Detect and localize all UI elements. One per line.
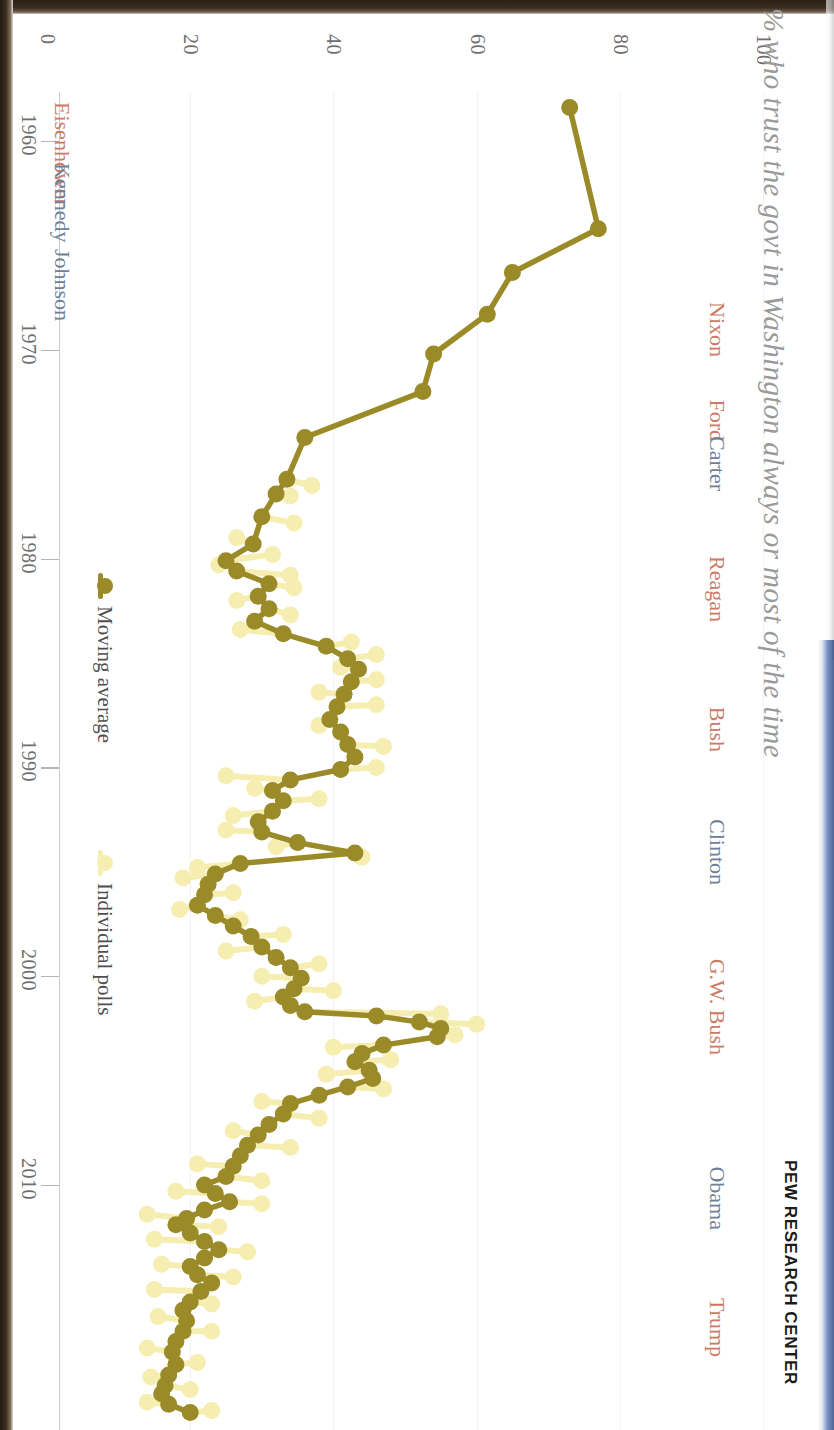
data-point bbox=[225, 1268, 242, 1285]
data-point bbox=[468, 1016, 485, 1033]
data-point bbox=[239, 1243, 256, 1260]
data-point bbox=[590, 220, 607, 237]
data-point bbox=[318, 1066, 335, 1083]
data-point bbox=[232, 621, 249, 638]
data-point bbox=[303, 477, 320, 494]
data-point bbox=[282, 607, 299, 624]
data-point bbox=[368, 759, 385, 776]
data-point bbox=[196, 1250, 213, 1267]
data-point bbox=[264, 546, 281, 563]
data-point bbox=[207, 907, 224, 924]
brand-label: PEW RESEARCH CENTER bbox=[780, 1160, 800, 1385]
data-point bbox=[225, 1122, 242, 1139]
data-point bbox=[504, 264, 521, 281]
data-point bbox=[268, 949, 285, 966]
data-point bbox=[346, 749, 363, 766]
data-point bbox=[196, 1233, 213, 1250]
data-point bbox=[289, 834, 306, 851]
data-point bbox=[210, 1218, 227, 1235]
data-point bbox=[167, 1183, 184, 1200]
data-point bbox=[414, 383, 431, 400]
data-point bbox=[429, 1028, 446, 1045]
data-point bbox=[268, 485, 285, 502]
data-point bbox=[278, 471, 295, 488]
data-point bbox=[146, 1281, 163, 1298]
data-point bbox=[253, 824, 270, 841]
data-point bbox=[203, 1323, 220, 1340]
data-point bbox=[150, 1308, 167, 1325]
data-point bbox=[167, 1216, 184, 1233]
data-point bbox=[311, 1087, 328, 1104]
data-point bbox=[225, 918, 242, 935]
data-point bbox=[253, 939, 270, 956]
data-point bbox=[253, 1172, 270, 1189]
chart-title: % who trust the govt in Washington alway… bbox=[757, 8, 790, 758]
data-point bbox=[210, 1241, 227, 1258]
data-point bbox=[189, 1266, 206, 1283]
data-point bbox=[196, 1202, 213, 1219]
data-point bbox=[139, 1394, 156, 1411]
data-point bbox=[182, 1381, 199, 1398]
legend-label-2: Individual polls bbox=[92, 883, 117, 1015]
data-point bbox=[182, 1225, 199, 1242]
data-point bbox=[296, 429, 313, 446]
data-point bbox=[203, 1402, 220, 1419]
data-point bbox=[425, 346, 442, 363]
data-point bbox=[311, 955, 328, 972]
data-point bbox=[218, 943, 235, 960]
data-point bbox=[275, 926, 292, 943]
data-point bbox=[364, 1070, 381, 1087]
data-point bbox=[218, 767, 235, 784]
data-point bbox=[343, 634, 360, 651]
data-point bbox=[253, 1195, 270, 1212]
data-point bbox=[232, 855, 249, 872]
data-point bbox=[479, 306, 496, 323]
data-point bbox=[282, 771, 299, 788]
data-point bbox=[346, 1053, 363, 1070]
data-point bbox=[286, 515, 303, 532]
poll-stem bbox=[226, 776, 290, 780]
data-point bbox=[282, 488, 299, 505]
data-point bbox=[368, 696, 385, 713]
data-point bbox=[375, 738, 392, 755]
data-point bbox=[296, 1003, 313, 1020]
data-point bbox=[225, 884, 242, 901]
data-point bbox=[139, 1339, 156, 1356]
data-point bbox=[275, 1106, 292, 1123]
data-point bbox=[375, 1037, 392, 1054]
data-point bbox=[339, 1078, 356, 1095]
data-point bbox=[318, 638, 335, 655]
data-point bbox=[253, 508, 270, 525]
data-point bbox=[246, 780, 263, 797]
data-point bbox=[346, 845, 363, 862]
data-point bbox=[275, 625, 292, 642]
data-point bbox=[218, 822, 235, 839]
data-point bbox=[311, 1110, 328, 1127]
data-point bbox=[311, 684, 328, 701]
data-point bbox=[189, 1354, 206, 1371]
data-point bbox=[182, 1404, 199, 1421]
data-point bbox=[253, 1093, 270, 1110]
data-point bbox=[282, 1139, 299, 1156]
data-point bbox=[139, 1206, 156, 1223]
data-point bbox=[228, 592, 245, 609]
data-point bbox=[368, 1007, 385, 1024]
data-point bbox=[261, 600, 278, 617]
data-point bbox=[160, 1396, 177, 1413]
data-point bbox=[332, 761, 349, 778]
legend-swatch-1 bbox=[97, 578, 113, 594]
data-point bbox=[207, 1185, 224, 1202]
data-point bbox=[228, 529, 245, 546]
data-point bbox=[221, 1193, 238, 1210]
data-point bbox=[189, 1156, 206, 1173]
data-point bbox=[246, 613, 263, 630]
data-point bbox=[286, 579, 303, 596]
data-point bbox=[171, 901, 188, 918]
data-point bbox=[153, 1256, 170, 1273]
data-point bbox=[561, 99, 578, 116]
data-point bbox=[228, 563, 245, 580]
data-point bbox=[146, 1231, 163, 1248]
data-point bbox=[325, 982, 342, 999]
data-point bbox=[175, 870, 192, 887]
data-point bbox=[368, 671, 385, 688]
